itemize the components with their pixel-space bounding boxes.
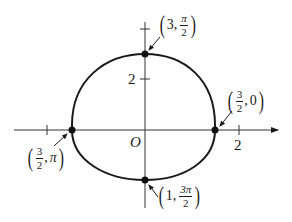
paren-open: ( <box>28 145 33 171</box>
paren-close: ) <box>195 183 200 209</box>
y-tick-label-2: 2 <box>128 72 136 87</box>
point-right <box>212 127 219 134</box>
origin-label: O <box>130 135 141 150</box>
paren-open: ( <box>160 12 165 38</box>
label-top-r: 3 <box>167 17 174 33</box>
label-left-theta: π <box>50 150 57 166</box>
arrow-top <box>149 37 160 50</box>
paren-close: ) <box>58 145 63 171</box>
label-left-point: ( 3 2 , π ) <box>26 145 65 171</box>
x-tick-label-2: 2 <box>234 138 242 153</box>
point-left <box>69 127 76 134</box>
label-top-point: ( 3, π 2 ) <box>158 12 197 38</box>
label-top-theta: π 2 <box>180 13 188 38</box>
polar-ellipse-diagram: O 2 2 ( 3, π 2 ) ( 3 2 , 0 ) ( 3 2 , π )… <box>0 0 292 222</box>
point-bottom <box>142 177 149 184</box>
label-right-point: ( 3 2 , 0 ) <box>226 88 265 114</box>
paren-open: ( <box>228 88 233 114</box>
label-right-r: 3 2 <box>236 89 244 114</box>
ellipse-curve <box>72 54 215 180</box>
label-bottom-theta: 3π 2 <box>179 184 192 209</box>
label-left-r: 3 2 <box>36 146 44 171</box>
label-right-theta: 0 <box>250 93 257 109</box>
label-bottom-r: 1 <box>166 188 173 204</box>
label-bottom-point: ( 1, 3π 2 ) <box>157 183 202 209</box>
paren-close: ) <box>190 12 195 38</box>
paren-close: ) <box>258 88 263 114</box>
paren-open: ( <box>159 183 164 209</box>
point-top <box>142 51 149 58</box>
